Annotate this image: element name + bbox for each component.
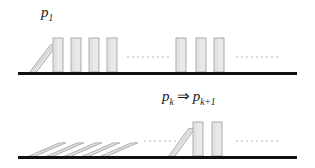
ellipsis-step-1 [144,140,176,142]
domino-fallen-5 [101,143,138,156]
panel-inductive-step: pk⇒pk+1 [0,84,315,168]
domino-upright-2 [53,38,63,72]
domino-upright-8 [212,122,222,156]
domino-upright-8 [214,38,224,72]
domino-fallen-3 [65,143,102,156]
domino-upright-3 [71,38,81,72]
domino-fallen-1 [29,143,66,156]
ellipsis-base-2 [236,56,278,58]
domino-fallen-4 [83,143,120,156]
ellipsis-step-2 [236,140,278,142]
domino-upright-6 [176,38,186,72]
domino-upright-7 [193,122,203,156]
ground-line-step [18,156,297,159]
domino-induction-figure: p1 [0,0,315,168]
ground-line-base [18,72,297,75]
ellipsis-base-1 [127,56,169,58]
base-case-dominoes [0,0,315,84]
domino-tipping-6 [169,128,195,156]
domino-fallen-2 [47,143,84,156]
domino-upright-7 [196,38,206,72]
domino-upright-5 [107,38,117,72]
domino-upright-4 [89,38,99,72]
inductive-step-dominoes [0,84,315,168]
panel-base-case: p1 [0,0,315,84]
